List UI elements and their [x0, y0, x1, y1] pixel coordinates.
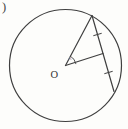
center-label: O: [51, 69, 59, 80]
figure-canvas: Ox): [0, 0, 128, 129]
geometry-figure: Ox): [0, 0, 128, 129]
problem-paren: ): [2, 0, 6, 14]
chord-top-to-lower-right: [92, 16, 114, 92]
